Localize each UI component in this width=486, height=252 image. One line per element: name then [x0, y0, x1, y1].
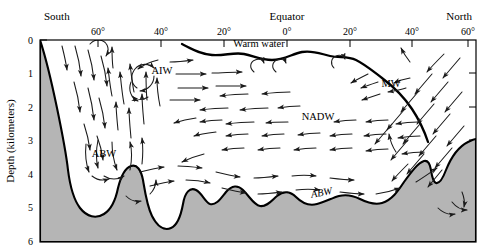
- ytick-label-6: 6: [28, 236, 33, 247]
- ytick-label-1: 1: [28, 68, 33, 79]
- ytick-label-3: 3: [28, 135, 33, 146]
- y-axis-title: Depth (kilometers): [4, 99, 17, 183]
- ytick-label-5: 5: [28, 202, 33, 213]
- label-abw-bottom: ABW: [309, 185, 334, 200]
- xtick-label-0: 60°: [91, 26, 105, 37]
- ytick-label-4: 4: [28, 169, 33, 180]
- xtick-label-3: 0°: [283, 26, 292, 37]
- label-nadw: NADW: [302, 111, 335, 122]
- axis-label-south: South: [44, 10, 70, 22]
- label-abw-south: ABW: [92, 148, 117, 159]
- axis-label-equator: Equator: [270, 10, 305, 22]
- xtick-label-5: 40°: [405, 26, 419, 37]
- figure-container: South Equator North 60° 40° 20° 0° 20° 4…: [0, 0, 486, 252]
- ytick-label-0: 0: [28, 35, 33, 46]
- xtick-label-1: 40°: [154, 26, 168, 37]
- xtick-label-4: 20°: [343, 26, 357, 37]
- label-mw: MW: [381, 78, 400, 89]
- seafloor-main-basin: [40, 40, 476, 242]
- thermocline-boundary: [182, 44, 428, 142]
- axis-label-north: North: [446, 10, 472, 22]
- xtick-label-6: 60°: [461, 26, 475, 37]
- ytick-label-2: 2: [28, 102, 33, 113]
- label-aiw: AIW: [152, 65, 173, 76]
- xtick-label-2: 20°: [217, 26, 231, 37]
- ocean-circulation-diagram: South Equator North 60° 40° 20° 0° 20° 4…: [0, 0, 486, 252]
